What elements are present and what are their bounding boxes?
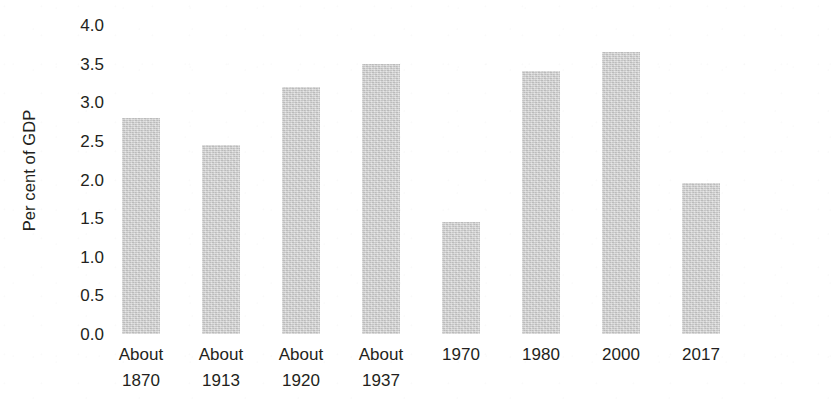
y-axis-tick: 3.5 bbox=[80, 55, 104, 72]
x-axis-tick-line1: 2017 bbox=[646, 342, 756, 368]
bar bbox=[442, 222, 480, 334]
x-axis-tick: 2017 bbox=[646, 342, 756, 368]
y-axis-tick: 0.0 bbox=[80, 326, 104, 343]
x-axis-tick-labels: About1870About1913About1920About19371970… bbox=[104, 334, 832, 410]
x-axis-tick-line2: 1937 bbox=[326, 368, 436, 394]
y-axis-title-label: Per cent of GDP bbox=[21, 109, 40, 231]
y-axis-tick: 2.0 bbox=[80, 171, 104, 188]
plot-area bbox=[104, 0, 832, 334]
bar bbox=[202, 145, 240, 334]
bar bbox=[682, 183, 720, 334]
y-axis-tick: 3.0 bbox=[80, 94, 104, 111]
y-axis-tick: 1.5 bbox=[80, 210, 104, 227]
y-axis-tick: 0.5 bbox=[80, 287, 104, 304]
bar bbox=[362, 64, 400, 334]
y-axis-tick: 2.5 bbox=[80, 132, 104, 149]
y-axis-tick: 4.0 bbox=[80, 17, 104, 34]
bar bbox=[602, 52, 640, 334]
y-axis-title: Per cent of GDP bbox=[14, 0, 46, 340]
bar bbox=[522, 71, 560, 334]
bar bbox=[122, 118, 160, 334]
bar-chart: Per cent of GDP 0.00.51.01.52.02.53.03.5… bbox=[0, 0, 832, 410]
y-axis-tick: 1.0 bbox=[80, 248, 104, 265]
bar bbox=[282, 87, 320, 334]
